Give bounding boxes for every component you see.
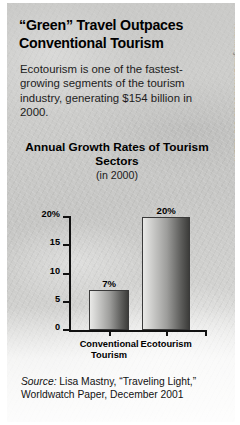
bar-value-label: 7% <box>90 278 128 289</box>
x-label-line: Tourism <box>65 350 153 361</box>
x-axis-line <box>69 330 207 332</box>
photo-credit: Terra Incognita Ecotours/Gerard “Ged” Ca… <box>234 23 235 161</box>
poster-panel: “Green” Travel Outpaces Conventional Tou… <box>7 3 235 422</box>
x-tick-mark-end <box>205 332 207 336</box>
y-tick-mark <box>63 301 69 303</box>
x-label-line: Ecotourism <box>122 339 210 350</box>
x-tick-mark <box>109 332 111 336</box>
poster-content: “Green” Travel Outpaces Conventional Tou… <box>7 3 235 422</box>
x-axis-label: Ecotourism <box>122 339 210 350</box>
bar-fill <box>143 218 189 329</box>
deck-paragraph: Ecotourism is one of the fastest-growing… <box>20 62 210 119</box>
y-tick: 0 <box>63 329 69 331</box>
bar: 7% <box>89 290 129 330</box>
source-line: Source: Lisa Mastny, “Traveling Light,” … <box>21 375 217 401</box>
y-tick-label: 15 <box>50 237 60 247</box>
y-tick-mark <box>63 273 69 275</box>
y-tick: 20% <box>63 216 69 218</box>
y-axis-line <box>69 216 71 332</box>
y-tick-label: 0 <box>55 322 60 332</box>
y-tick-label: 10 <box>50 266 60 276</box>
y-tick: 10 <box>63 273 69 275</box>
bar-fill <box>90 291 128 329</box>
chart-title: Annual Growth Rates of Tourism Sectors <box>19 140 215 168</box>
source-label: Source: <box>21 376 57 387</box>
bar: 20% <box>142 217 190 330</box>
bar-chart: 20%151050 7%20% ConventionalTourismEcoto… <box>29 189 207 337</box>
y-tick-mark <box>63 244 69 246</box>
y-tick-label: 5 <box>55 294 60 304</box>
y-tick-mark <box>63 329 69 331</box>
bar-value-label: 20% <box>143 205 189 216</box>
headline: “Green” Travel Outpaces Conventional Tou… <box>19 17 215 52</box>
y-tick-mark <box>63 216 69 218</box>
y-tick-label: 20% <box>42 209 60 219</box>
chart-subtitle: (in 2000) <box>19 169 215 181</box>
y-tick: 5 <box>63 301 69 303</box>
y-tick: 15 <box>63 244 69 246</box>
x-tick-mark <box>166 332 168 336</box>
